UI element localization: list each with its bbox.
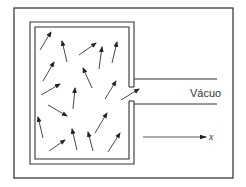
molecule-velocity-arrow bbox=[62, 41, 67, 62]
molecule-velocity-arrow bbox=[72, 129, 77, 150]
molecule-velocity-arrow bbox=[83, 68, 92, 88]
molecule-velocity-arrow bbox=[95, 113, 107, 133]
molecule-velocity-arrow bbox=[41, 84, 60, 95]
molecule-velocity-arrow bbox=[105, 81, 116, 99]
molecule-velocity-arrow bbox=[48, 105, 67, 116]
molecule-velocity-arrow bbox=[43, 62, 54, 81]
vacuum-label: Vácuo bbox=[190, 87, 221, 99]
effusion-diagram: Vácuo x bbox=[0, 0, 246, 187]
container-outer-wall bbox=[30, 22, 134, 164]
x-axis-label: x bbox=[208, 131, 214, 142]
molecule-velocity-arrow bbox=[49, 140, 65, 151]
molecule-velocity-arrow bbox=[40, 32, 51, 50]
molecule-velocity-arrow bbox=[79, 43, 96, 55]
molecule-velocity-arrow bbox=[112, 42, 117, 63]
molecule-velocity-arrow bbox=[121, 89, 139, 100]
gas-container bbox=[30, 22, 134, 164]
container-inner-wall bbox=[35, 27, 129, 159]
molecule-velocity-arrow bbox=[38, 117, 43, 138]
molecule-velocity-arrow bbox=[99, 47, 102, 69]
molecule-velocity-arrow bbox=[108, 133, 120, 152]
molecule-velocity-arrow bbox=[73, 88, 75, 109]
molecule-velocity-arrow bbox=[88, 132, 93, 151]
molecule-arrows bbox=[38, 32, 139, 152]
